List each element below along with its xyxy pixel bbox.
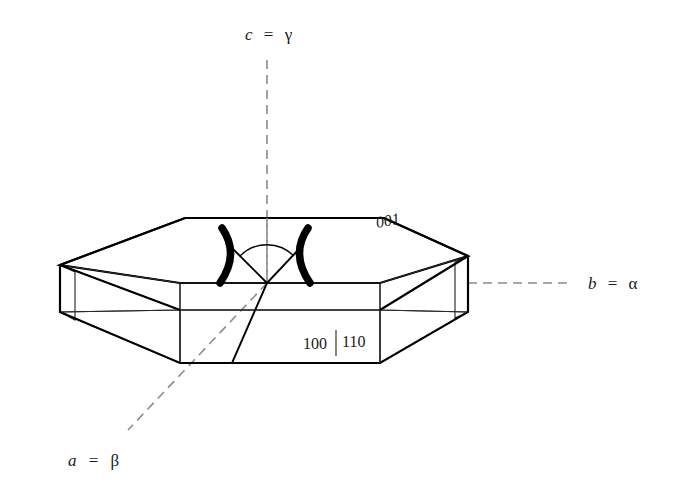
crystal-axes-figure: 001 100 110 c = γ b = α a = β [0,0,681,489]
b-axis-label: b = α [588,274,638,293]
face-label-100: 100 [303,335,327,352]
b-axis-label-greek: α [629,274,638,293]
a-axis-label: a = β [68,451,120,470]
b-axis-label-symbol: b [588,274,597,293]
face-label-110: 110 [342,333,365,350]
b-axis-label-equals: = [608,274,618,293]
c-axis-label-equals: = [264,25,274,44]
c-axis-label-greek: γ [284,25,293,44]
c-axis-label: c = γ [245,25,293,44]
crystal-diagram-svg: 001 100 110 c = γ b = α a = β [0,0,681,489]
a-axis-label-equals: = [89,451,99,470]
a-axis-label-greek: β [111,451,120,470]
c-axis-label-symbol: c [245,25,253,44]
a-axis-label-symbol: a [68,451,77,470]
figure-background [0,0,681,489]
